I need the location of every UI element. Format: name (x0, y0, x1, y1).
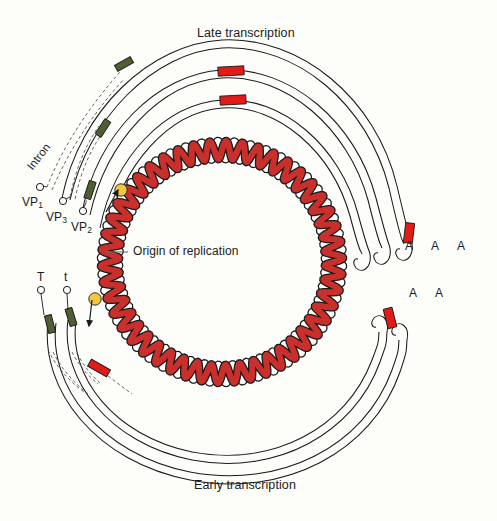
late-transcription-label: Late transcription (197, 26, 295, 40)
early-transcription-label: Early transcription (194, 478, 296, 492)
transcript-label-vp2: VP2 (71, 220, 92, 235)
vp1-name: VP (22, 195, 38, 209)
transcript-label-vp1: VP1 (22, 195, 43, 210)
sv40-genome-diagram: Late transcription Early transcription O… (0, 0, 497, 521)
transcript-label-t: t (64, 270, 67, 284)
origin-marker-upper (115, 184, 127, 196)
diagram-canvas (0, 0, 497, 521)
vp1-subscript: 1 (38, 200, 43, 210)
transcript-label-vp3: VP3 (46, 210, 67, 225)
origin-of-replication-label: Origin of replication (133, 244, 238, 258)
polyA-label-early-2: A (435, 286, 443, 300)
t-cap-circle (63, 286, 70, 293)
polyA-label-late-1: A (405, 239, 413, 253)
vp3-subscript: 3 (62, 215, 67, 225)
vp1-cap-circle (36, 183, 43, 190)
polyA-label-early-1: A (409, 286, 417, 300)
transcript-label-T: T (37, 270, 44, 284)
polyA-label-late-3: A (457, 239, 465, 253)
vp2-exon-block (220, 95, 246, 105)
vp2-name: VP (71, 220, 87, 234)
vp2-subscript: 2 (87, 225, 92, 235)
vp3-name: VP (46, 210, 62, 224)
vp3-exon-block (218, 66, 244, 76)
vp2-cap-circle (79, 207, 86, 214)
vp3-cap-circle (59, 197, 66, 204)
origin-marker-lower (89, 293, 101, 305)
t-name: t (64, 270, 67, 284)
canvas-background (0, 0, 497, 521)
T-name: T (37, 270, 44, 284)
polyA-label-late-2: A (431, 239, 439, 253)
T-cap-circle (37, 286, 44, 293)
